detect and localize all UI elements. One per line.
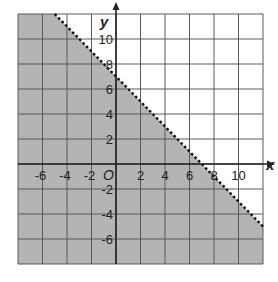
x-tick-label: -6 <box>35 168 47 183</box>
x-tick-label: 2 <box>137 168 144 183</box>
y-axis-label: y <box>99 13 109 30</box>
y-tick-label: 2 <box>106 132 113 147</box>
inequality-graph: -6-4-2246810-6-4-2246810 x y O <box>0 0 278 282</box>
x-tick-label: 8 <box>210 168 217 183</box>
x-tick-label: -4 <box>59 168 71 183</box>
x-tick-label: 4 <box>161 168 168 183</box>
x-tick-label: 6 <box>186 168 193 183</box>
x-axis-label: x <box>265 156 275 173</box>
y-tick-label: 6 <box>106 82 113 97</box>
y-tick-label: 10 <box>99 32 113 47</box>
y-tick-label: -2 <box>101 182 113 197</box>
x-tick-label: 10 <box>231 168 245 183</box>
y-tick-label: 8 <box>106 57 113 72</box>
y-tick-label: -4 <box>101 207 113 222</box>
y-axis-arrow-icon <box>113 2 120 10</box>
y-tick-label: 4 <box>106 107 113 122</box>
y-tick-label: -6 <box>101 232 113 247</box>
origin-label: O <box>103 167 114 183</box>
x-tick-label: -2 <box>84 168 96 183</box>
